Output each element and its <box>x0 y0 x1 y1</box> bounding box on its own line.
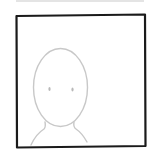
picture-frame <box>17 15 146 148</box>
left-eye <box>48 87 50 91</box>
person-silhouette-icon <box>0 0 156 160</box>
right-eye <box>71 88 73 92</box>
avatar-placeholder[interactable] <box>0 0 156 160</box>
